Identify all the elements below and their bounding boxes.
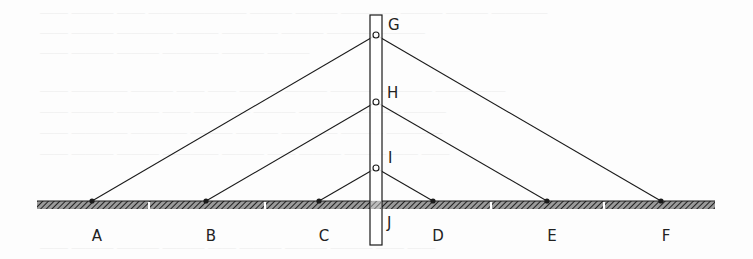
bridge-diagram: —— ——— —— ——————— ——— ——— ———— ——— ——— —… bbox=[0, 0, 753, 259]
diagram-canvas: A B C D E F G H I J bbox=[0, 0, 753, 259]
label-H: H bbox=[387, 84, 398, 102]
node-D bbox=[430, 198, 435, 203]
cable-G-A bbox=[92, 35, 376, 201]
node-C bbox=[316, 198, 321, 203]
node-E bbox=[544, 198, 549, 203]
ground-gap bbox=[148, 202, 150, 209]
cable-H-E bbox=[376, 102, 547, 201]
label-J: J bbox=[386, 214, 391, 232]
cable-I-D bbox=[376, 168, 433, 201]
label-I: I bbox=[388, 149, 392, 167]
cable-H-B bbox=[206, 102, 376, 201]
node-I bbox=[373, 165, 379, 171]
ground-gap bbox=[490, 202, 492, 209]
node-B bbox=[203, 198, 208, 203]
node-F bbox=[658, 198, 663, 203]
label-D: D bbox=[432, 227, 444, 245]
tower bbox=[370, 15, 382, 245]
cable-G-F bbox=[376, 35, 661, 201]
label-C: C bbox=[319, 227, 329, 245]
label-E: E bbox=[547, 227, 556, 245]
label-F: F bbox=[662, 227, 671, 245]
node-H bbox=[373, 99, 379, 105]
label-A: A bbox=[92, 227, 103, 245]
ground-gap bbox=[603, 202, 605, 209]
node-G bbox=[373, 32, 379, 38]
label-B: B bbox=[206, 227, 216, 245]
tower-ground-crossing bbox=[371, 201, 381, 209]
label-G: G bbox=[388, 16, 400, 34]
cable-I-C bbox=[319, 168, 376, 201]
ground-gap bbox=[264, 202, 266, 209]
node-A bbox=[89, 198, 94, 203]
